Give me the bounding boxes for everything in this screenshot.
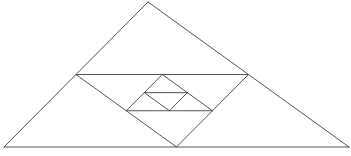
segment-small-jl	[144, 93, 169, 111]
diagram-segments	[4, 2, 349, 147]
nested-triangles-diagram	[0, 0, 351, 156]
segment-small-kl	[169, 93, 187, 111]
